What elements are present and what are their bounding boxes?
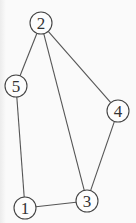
- edge-1-3: [36, 202, 76, 207]
- graph-diagram: 12345: [0, 0, 136, 223]
- node-2: 2: [30, 12, 52, 34]
- node-label: 1: [21, 199, 30, 218]
- edge-2-4: [48, 31, 111, 102]
- edge-3-4: [91, 121, 115, 190]
- edges-layer: [17, 31, 115, 206]
- node-5: 5: [5, 75, 27, 97]
- node-label: 5: [12, 77, 21, 96]
- node-label: 3: [83, 192, 92, 211]
- node-3: 3: [76, 190, 98, 212]
- edge-5-1: [17, 97, 24, 197]
- edge-2-5: [20, 33, 37, 76]
- node-1: 1: [14, 197, 36, 219]
- node-label: 4: [114, 102, 123, 121]
- node-label: 2: [37, 14, 46, 33]
- node-4: 4: [107, 100, 129, 122]
- edge-2-3: [44, 34, 84, 191]
